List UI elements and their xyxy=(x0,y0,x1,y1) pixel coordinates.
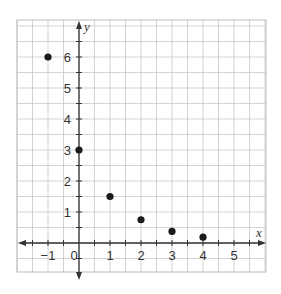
y-axis-arrow-down-icon xyxy=(76,272,82,280)
x-axis-label: x xyxy=(255,225,262,240)
x-tick-label: −1 xyxy=(41,248,56,263)
data-point xyxy=(137,216,144,223)
x-tick-label: 0 xyxy=(70,248,77,263)
data-point xyxy=(199,234,206,241)
y-axis-arrow-up-icon xyxy=(76,21,82,29)
coordinate-plane: −1012345123456 x y xyxy=(0,0,281,294)
y-tick-label: 4 xyxy=(64,112,71,127)
axes xyxy=(18,21,266,280)
y-tick-label: 2 xyxy=(64,174,71,189)
x-tick-label: 1 xyxy=(106,248,113,263)
y-tick-label: 1 xyxy=(64,205,71,220)
y-tick-label: 6 xyxy=(64,50,71,65)
x-axis-arrow-left-icon xyxy=(18,240,26,246)
y-tick-label: 3 xyxy=(64,143,71,158)
grid-frame xyxy=(17,20,266,272)
y-tick-label: 5 xyxy=(64,81,71,96)
data-point xyxy=(168,228,175,235)
data-point xyxy=(44,53,51,60)
x-tick-label: 3 xyxy=(168,248,175,263)
x-tick-label: 5 xyxy=(230,248,237,263)
data-point xyxy=(106,193,113,200)
grid-lines xyxy=(17,20,266,272)
tick-labels: −1012345123456 xyxy=(41,50,238,263)
y-axis-label: y xyxy=(82,19,90,34)
data-point xyxy=(75,146,82,153)
x-tick-label: 4 xyxy=(199,248,206,263)
x-tick-label: 2 xyxy=(137,248,144,263)
